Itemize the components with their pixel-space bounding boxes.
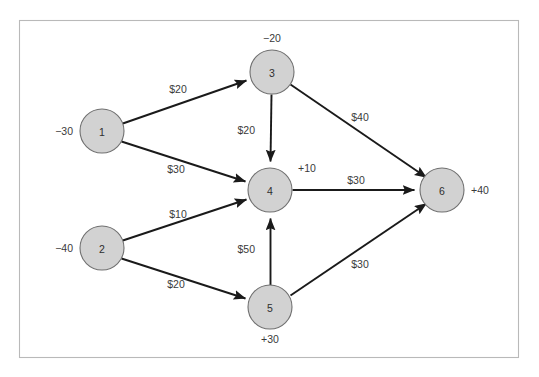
edge-cost-1-4: $30 bbox=[167, 163, 185, 175]
node-supply-3: −20 bbox=[263, 32, 281, 44]
edge-cost-5-6: $30 bbox=[351, 258, 369, 270]
node-label-2: 2 bbox=[99, 243, 105, 255]
node-supply-1: −30 bbox=[55, 125, 73, 137]
node-supply-5: +30 bbox=[261, 333, 279, 345]
node-label-5: 5 bbox=[267, 302, 273, 314]
edge-line-3-4 bbox=[271, 95, 272, 162]
network-flow-figure: $20 $30 $20 $40 $10 $20 $5 bbox=[0, 0, 539, 377]
node-label-4: 4 bbox=[267, 185, 273, 197]
edge-cost-4-6: $30 bbox=[347, 174, 365, 186]
node-label-1: 1 bbox=[99, 126, 105, 138]
node-label-6: 6 bbox=[439, 185, 445, 197]
node-label-3: 3 bbox=[269, 67, 275, 79]
edge-cost-5-4: $50 bbox=[237, 243, 255, 255]
network-diagram-canvas: $20 $30 $20 $40 $10 $20 $5 bbox=[0, 0, 539, 377]
node-supply-2: −40 bbox=[55, 242, 73, 254]
node-supply-4: +10 bbox=[298, 162, 316, 174]
node-supply-6: +40 bbox=[471, 184, 489, 196]
edge-cost-2-4: $10 bbox=[169, 208, 187, 220]
edge-cost-3-6: $40 bbox=[351, 111, 369, 123]
edge-cost-3-4: $20 bbox=[237, 124, 255, 136]
edge-cost-2-5: $20 bbox=[167, 278, 185, 290]
edge-cost-1-3: $20 bbox=[169, 83, 187, 95]
